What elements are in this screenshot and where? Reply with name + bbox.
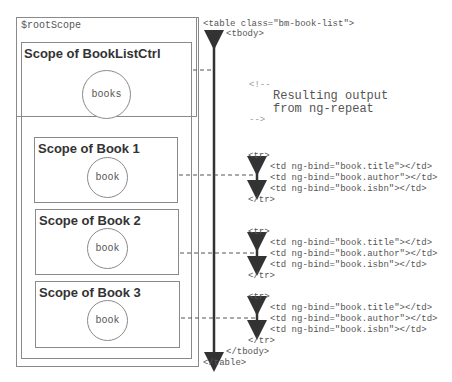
code-comment-line2: from ng-repeat bbox=[273, 102, 374, 116]
code-tr-open-1: <tr> bbox=[248, 151, 270, 162]
code-comment-line1: Resulting output bbox=[273, 89, 388, 103]
code-tbody-close: </tbody> bbox=[226, 347, 269, 358]
code-td-author-1: <td ng-bind="book.author"></td> bbox=[270, 173, 437, 184]
code-comment-close: --> bbox=[249, 115, 265, 126]
code-tr-close-3: </tr> bbox=[248, 336, 275, 347]
code-td-isbn-2: <td ng-bind="book.isbn"></td> bbox=[270, 260, 427, 271]
code-tr-open-3: <tr> bbox=[248, 292, 270, 303]
code-comment-open: <!-- bbox=[249, 80, 271, 91]
code-td-title-2: <td ng-bind="book.title"></td> bbox=[270, 238, 432, 249]
code-td-author-3: <td ng-bind="book.author"></td> bbox=[270, 314, 437, 325]
code-td-title-3: <td ng-bind="book.title"></td> bbox=[270, 303, 432, 314]
code-table-close: </table> bbox=[203, 358, 246, 369]
code-td-isbn-1: <td ng-bind="book.isbn"></td> bbox=[270, 184, 427, 195]
code-tbody-open: <tbody> bbox=[226, 29, 264, 40]
code-td-title-1: <td ng-bind="book.title"></td> bbox=[270, 162, 432, 173]
code-tr-close-1: </tr> bbox=[248, 195, 275, 206]
code-td-author-2: <td ng-bind="book.author"></td> bbox=[270, 249, 437, 260]
code-tr-open-2: <tr> bbox=[248, 227, 270, 238]
code-tr-close-2: </tr> bbox=[248, 271, 275, 282]
code-td-isbn-3: <td ng-bind="book.isbn"></td> bbox=[270, 325, 427, 336]
